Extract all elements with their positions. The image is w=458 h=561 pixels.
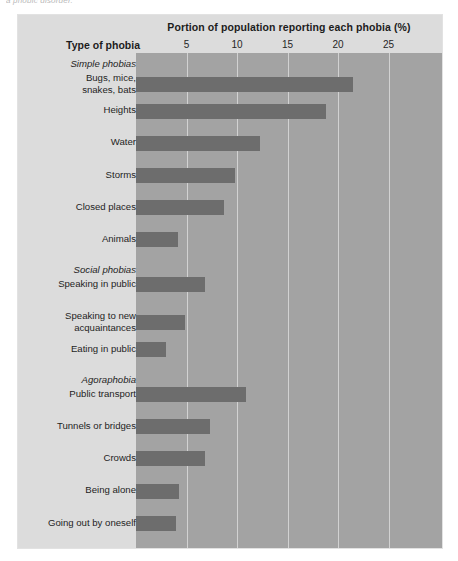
- row-label-line: snakes, bats: [28, 84, 136, 96]
- row-label-line: acquaintances: [28, 322, 136, 334]
- bar: [136, 387, 246, 402]
- row-label: Closed places: [28, 201, 136, 213]
- bar: [136, 342, 166, 357]
- row-label: Speaking in public: [28, 278, 136, 290]
- bar: [136, 104, 326, 119]
- row-label: Bugs, mice,snakes, bats: [28, 72, 136, 95]
- row-label: Animals: [28, 233, 136, 245]
- bar: [136, 451, 205, 466]
- x-tick-label-20: 20: [323, 39, 353, 50]
- row-label: Being alone: [28, 484, 136, 496]
- row-label-line: Tunnels or bridges: [28, 420, 136, 432]
- gridline-5: [187, 53, 188, 548]
- gridline-15: [288, 53, 289, 548]
- gridline-20: [338, 53, 339, 548]
- row-label: Going out by oneself: [28, 517, 136, 529]
- chart-figure-card: Portion of population reporting each pho…: [18, 15, 442, 548]
- figure-page: a phobic disorder. Portion of population…: [0, 0, 458, 561]
- x-tick-label-15: 15: [273, 39, 303, 50]
- row-label-line: Public transport: [28, 388, 136, 400]
- row-label: Public transport: [28, 388, 136, 400]
- row-label-line: Water: [28, 136, 136, 148]
- bar: [136, 315, 185, 330]
- row-label-line: Speaking in public: [28, 278, 136, 290]
- row-label-line: Being alone: [28, 484, 136, 496]
- row-label: Heights: [28, 104, 136, 116]
- row-label-line: Bugs, mice,: [28, 72, 136, 84]
- bar: [136, 232, 178, 247]
- bar: [136, 277, 205, 292]
- row-label-line: Eating in public: [28, 343, 136, 355]
- row-label: Speaking to newacquaintances: [28, 310, 136, 333]
- group-label-agoraphobia: Agoraphobia: [28, 374, 136, 386]
- page-top-caption: a phobic disorder.: [6, 0, 446, 8]
- row-label-line: Storms: [28, 169, 136, 181]
- x-tick-label-10: 10: [222, 39, 252, 50]
- bar: [136, 77, 353, 92]
- bar: [136, 168, 235, 183]
- row-label-line: Crowds: [28, 452, 136, 464]
- row-label-line: Going out by oneself: [28, 517, 136, 529]
- row-label: Storms: [28, 169, 136, 181]
- group-label-social-phobias: Social phobias: [28, 264, 136, 276]
- row-axis-caption: Type of phobia: [28, 39, 140, 51]
- row-label-line: Animals: [28, 233, 136, 245]
- row-label-line: Speaking to new: [28, 310, 136, 322]
- gridline-25: [389, 53, 390, 548]
- bar: [136, 200, 224, 215]
- x-tick-label-5: 5: [172, 39, 202, 50]
- bar: [136, 516, 176, 531]
- group-label-simple-phobias: Simple phobias: [28, 58, 136, 70]
- row-label-line: Closed places: [28, 201, 136, 213]
- chart-title: Portion of population reporting each pho…: [136, 21, 442, 33]
- row-label: Water: [28, 136, 136, 148]
- row-label-line: Heights: [28, 104, 136, 116]
- bar: [136, 136, 260, 151]
- bar: [136, 484, 179, 499]
- bar: [136, 419, 210, 434]
- x-tick-label-25: 25: [374, 39, 404, 50]
- row-label: Eating in public: [28, 343, 136, 355]
- plot-area: [136, 53, 442, 548]
- row-label: Crowds: [28, 452, 136, 464]
- row-label: Tunnels or bridges: [28, 420, 136, 432]
- gridline-10: [237, 53, 238, 548]
